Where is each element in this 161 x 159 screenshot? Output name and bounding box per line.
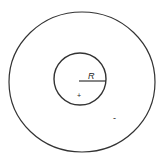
inner-charge-sign: + <box>77 92 81 99</box>
radius-label: R <box>88 71 95 81</box>
concentric-circles-diagram: R + - <box>0 0 161 159</box>
outer-charge-sign: - <box>113 113 116 123</box>
outer-circle <box>9 12 155 152</box>
